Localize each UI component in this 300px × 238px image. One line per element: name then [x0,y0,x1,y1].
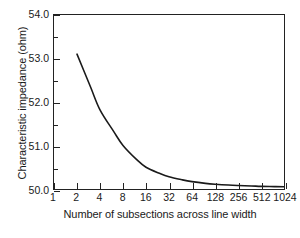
y-tick-label: 52.0 [16,97,49,107]
curve-svg [54,15,284,189]
x-tick [239,183,240,189]
x-tick-label: 64 [186,191,198,204]
x-tick [286,183,287,189]
x-axis-tick-labels: 12481632641282565121024 [53,191,285,205]
x-tick-label: 1024 [273,191,296,204]
x-tick-label: 256 [230,191,248,204]
x-tick [123,183,124,189]
x-tick-label: 32 [163,191,175,204]
y-tick-major [54,147,60,148]
x-tick [77,183,78,189]
x-tick [262,183,263,189]
x-tick [54,183,55,189]
x-tick-label: 2 [73,191,79,204]
y-tick-minor [54,37,58,38]
x-tick-label: 16 [140,191,152,204]
x-tick [146,183,147,189]
y-tick-major [54,59,60,60]
x-tick-label: 128 [207,191,225,204]
y-tick-label: 53.0 [16,53,49,63]
x-tick [170,183,171,189]
x-tick [216,183,217,189]
impedance-curve [77,54,284,187]
y-tick-label: 50.0 [16,185,49,195]
y-tick-major [54,103,60,104]
y-tick-label: 51.0 [16,141,49,151]
x-tick-label: 1 [50,191,56,204]
x-tick-label: 4 [96,191,102,204]
y-axis-tick-labels: 50.051.052.053.054.0 [16,0,49,238]
y-tick-minor [54,125,58,126]
y-tick-minor [54,81,58,82]
y-tick-label: 54.0 [16,9,49,19]
x-tick-label: 8 [120,191,126,204]
x-tick-label: 512 [253,191,271,204]
plot-area [53,14,285,190]
y-tick-major [54,15,60,16]
x-axis-title: Number of subsections across line width [30,207,290,221]
x-tick [100,183,101,189]
y-tick-minor [54,169,58,170]
chart-figure: Characteristic impedance (ohm) 50.051.05… [0,0,300,238]
x-tick [193,183,194,189]
